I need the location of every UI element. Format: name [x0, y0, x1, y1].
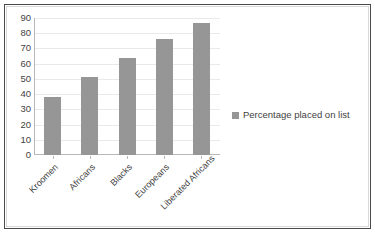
y-axis-tick-label: 60 — [3, 59, 31, 69]
x-axis-tick-mark — [164, 156, 165, 159]
bar — [44, 97, 61, 155]
y-axis-tick-label: 10 — [3, 135, 31, 145]
y-axis-tick-label: 80 — [3, 28, 31, 38]
x-axis-tick-mark — [201, 156, 202, 159]
y-axis-tick-label: 20 — [3, 120, 31, 130]
x-axis-tick-labels: KroomenAfricansBlacksEuropeansLiberated … — [34, 156, 220, 228]
y-axis-tick-label: 40 — [3, 89, 31, 99]
x-axis-tick-mark — [127, 156, 128, 159]
y-axis-tick-labels: 0102030405060708090 — [0, 18, 31, 155]
bar-series-percentage-placed-on-list — [34, 18, 220, 155]
y-axis-tick-label: 0 — [3, 150, 31, 160]
legend-entry-label: Percentage placed on list — [243, 110, 350, 120]
y-axis-tick-label: 50 — [3, 74, 31, 84]
plot-wrapper: 0102030405060708090 KroomenAfricansBlack… — [0, 0, 375, 233]
bar — [156, 39, 173, 155]
x-axis-tick-mark — [90, 156, 91, 159]
y-axis-tick-label: 70 — [3, 43, 31, 53]
chart-legend: Percentage placed on list — [232, 110, 350, 120]
bar — [193, 23, 210, 155]
bar — [81, 77, 98, 155]
legend-swatch-icon — [232, 112, 239, 119]
bar — [119, 58, 136, 155]
x-axis-tick-mark — [53, 156, 54, 159]
y-axis-tick-label: 30 — [3, 104, 31, 114]
chart-figure: 0102030405060708090 KroomenAfricansBlack… — [0, 0, 375, 233]
y-axis-tick-label: 90 — [3, 13, 31, 23]
